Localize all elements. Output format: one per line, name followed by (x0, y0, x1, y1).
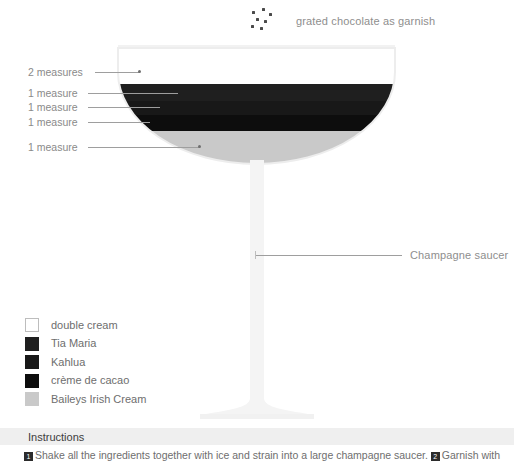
champagne-saucer-label: Champagne saucer (410, 250, 508, 261)
legend-swatch (25, 355, 39, 369)
leader-line (88, 107, 160, 108)
step-1-text: Shake all the ingredients together with … (35, 449, 428, 461)
step-1-badge: 1 (24, 452, 33, 461)
chocolate-speck (264, 20, 267, 23)
legend-item: Tia Maria (25, 335, 225, 354)
chocolate-speck (269, 13, 272, 16)
legend-swatch (25, 374, 39, 388)
leader-line (88, 93, 178, 94)
legend-label: Tia Maria (51, 338, 96, 349)
instructions-body: 1Shake all the ingredients together with… (24, 449, 510, 462)
measure-label: 1 measure (28, 101, 78, 113)
legend-label: crème de cacao (51, 375, 129, 386)
legend-item: Kahlua (25, 353, 225, 372)
measure-label: 1 measure (28, 116, 78, 128)
legend-item: double cream (25, 316, 225, 335)
measure-label: 1 measure (28, 87, 78, 99)
chocolate-speck (256, 18, 259, 21)
measure-label: 2 measures (28, 66, 83, 78)
chocolate-speck (260, 27, 263, 30)
garnish-label: grated chocolate as garnish (296, 16, 435, 27)
chocolate-speck (252, 11, 255, 14)
leader-dot (138, 70, 141, 73)
chocolate-speck (251, 25, 254, 28)
leader-line (88, 147, 200, 148)
leader-dot (198, 145, 201, 148)
leader-line (88, 122, 150, 123)
measure-label: 1 measure (28, 141, 78, 153)
saucer-leader-line (256, 255, 402, 256)
step-2-text: Garnish with (442, 449, 500, 461)
legend-swatch (25, 337, 39, 351)
legend-label: double cream (51, 320, 118, 331)
chocolate-speck (262, 8, 265, 11)
instructions-title: Instructions (28, 431, 84, 443)
cocktail-recipe-diagram: grated chocolate as garnish 2 mea (0, 0, 514, 463)
legend-swatch (25, 392, 39, 406)
legend-swatch (25, 318, 39, 332)
leader-line (95, 72, 140, 73)
legend-label: Kahlua (51, 357, 85, 368)
grated-chocolate-icon (250, 8, 280, 34)
ingredient-legend: double cream Tia Maria Kahlua crème de c… (25, 316, 225, 409)
step-2-badge: 2 (431, 452, 440, 461)
legend-item: Baileys Irish Cream (25, 390, 225, 409)
legend-label: Baileys Irish Cream (51, 394, 146, 405)
legend-item: crème de cacao (25, 372, 225, 391)
